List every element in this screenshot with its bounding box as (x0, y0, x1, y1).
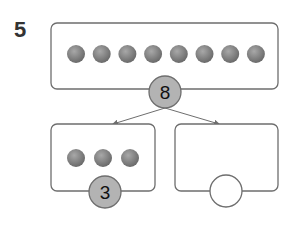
ball (118, 45, 136, 63)
ball (247, 45, 265, 63)
part-left-number: 3 (100, 182, 111, 203)
ball (67, 149, 85, 167)
ball (67, 45, 85, 63)
whole-number: 8 (160, 82, 171, 103)
ball (93, 45, 111, 63)
arrow-left (113, 108, 165, 124)
part-right-answer-circle[interactable] (210, 175, 242, 207)
ball (94, 149, 112, 167)
number-bond-diagram: 8 3 (0, 0, 294, 227)
part-left-balls (67, 149, 139, 167)
arrow-right (165, 108, 219, 124)
ball (144, 45, 162, 63)
ball (170, 45, 188, 63)
ball (121, 149, 139, 167)
ball (221, 45, 239, 63)
ball (196, 45, 214, 63)
